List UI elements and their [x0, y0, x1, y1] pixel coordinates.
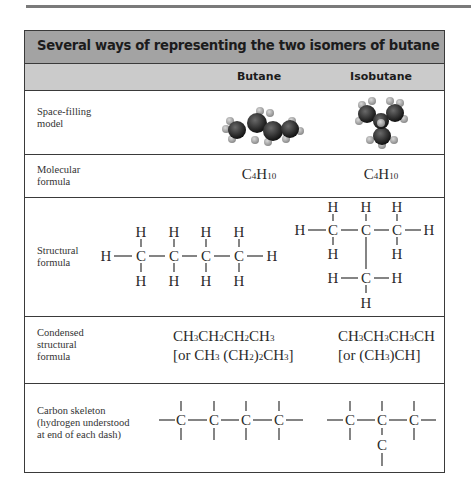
svg-text:C: C — [377, 412, 387, 428]
svg-text:C: C — [176, 412, 186, 428]
isomers-table: Several ways of representing the two iso… — [24, 30, 445, 473]
top-rule — [26, 5, 471, 8]
svg-text:C: C — [377, 437, 387, 453]
svg-text:C: C — [241, 412, 251, 428]
svg-text:C: C — [274, 412, 284, 428]
butane-carbon-skeleton: C C C C — [159, 401, 303, 440]
svg-text:C: C — [345, 412, 355, 428]
svg-text:C: C — [209, 412, 219, 428]
svg-text:C: C — [409, 412, 419, 428]
isobutane-carbon-skeleton: C C C C — [327, 401, 436, 466]
carbon-skeletons: C C C C C C C C — [25, 31, 446, 474]
